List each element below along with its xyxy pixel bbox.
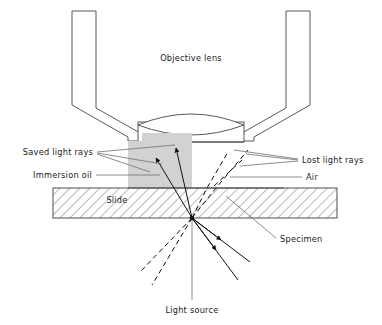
slide-hatched-body [53,188,337,218]
label-light-source: Light source [165,305,218,315]
immersion-oil-upper-fill [142,133,192,142]
specimen-point-group [190,216,194,220]
incident-ray-dashed-2 [152,218,192,285]
label-lost-light-rays: Lost light rays [302,155,364,165]
lost-ray-3 [214,160,242,186]
text-labels: Objective lens Saved light rays Lost lig… [23,53,364,315]
immersion-oil-region [128,133,192,188]
incident-ray-dashed-1 [140,218,192,272]
objective-arm-left [72,11,140,141]
label-saved-light-rays: Saved light rays [23,147,93,157]
label-air: Air [306,172,318,182]
leader-lost-rays-a [234,150,298,159]
leader-lost-rays-c [240,161,298,166]
label-slide: Slide [106,195,127,205]
label-immersion-oil: Immersion oil [33,170,92,180]
microscope-slide [53,188,337,218]
incident-rays-group [140,218,250,300]
oil-immersion-diagram: Objective lens Saved light rays Lost lig… [0,0,382,325]
label-specimen: Specimen [280,234,322,244]
objective-arm-right [242,11,310,141]
specimen-point [190,216,194,220]
leader-lost-rays-b [246,154,298,160]
label-objective-lens: Objective lens [160,53,222,63]
diagram-canvas: Objective lens Saved light rays Lost lig… [0,0,382,325]
